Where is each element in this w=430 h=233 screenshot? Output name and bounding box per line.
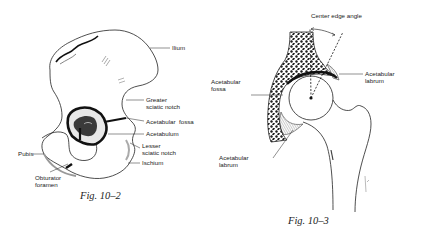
figure-10-3: Center edge angle Acetabular fossa Aceta… [215,0,430,233]
label-acetabular-fossa: Acetabular fossa [146,118,194,125]
label-greater-sciatic-notch: Greater sciatic notch [146,96,180,111]
label-acetabulum: Acetabulum [146,130,179,137]
caption-fig-10-3: Fig. 10–3 [288,215,329,226]
label-obturator-foramen: Obturator foramen [35,174,61,189]
label-ischium: Ischium [142,159,163,166]
hip-joint-section-illustration [215,0,430,233]
label-acetabular-labrum-lower: Acetabular labrum [219,154,249,169]
label-ilium: Ilium [172,44,185,51]
caption-fig-10-2: Fig. 10–2 [80,190,121,201]
label-lesser-sciatic-notch: Lesser sciatic notch [142,142,176,157]
label-acetabular-fossa: Acetabular fossa [211,78,241,93]
figure-10-2: Ilium Greater sciatic notch Acetabular f… [0,0,215,233]
label-acetabular-labrum-upper: Acetabular labrum [365,70,395,85]
label-center-edge-angle: Center edge angle [311,12,362,19]
label-pubis: Pubis [18,150,33,157]
